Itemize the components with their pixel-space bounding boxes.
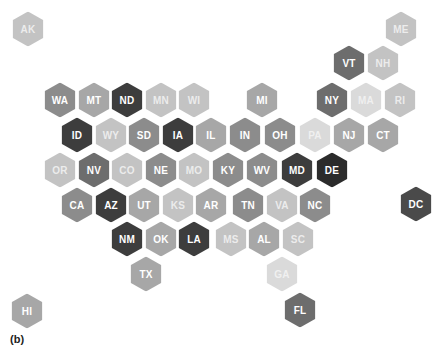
state-label: CA [70, 200, 85, 210]
state-hex-mo: MO [179, 153, 210, 188]
state-label: KY [221, 165, 235, 175]
us-hex-tile-map: AKMEVTNHWAMTNDMNWIMINYMARIIDWYSDIAILINOH… [0, 0, 442, 354]
state-label: NV [87, 165, 101, 175]
state-hex-la: LA [179, 222, 210, 257]
state-hex-in: IN [230, 118, 261, 153]
state-hex-vt: VT [334, 46, 365, 81]
state-label: TX [139, 269, 152, 279]
state-label: WV [254, 165, 271, 175]
state-hex-or: OR [45, 153, 76, 188]
state-hex-ks: KS [163, 188, 194, 223]
state-label: NE [154, 165, 168, 175]
state-label: ID [72, 130, 82, 140]
state-hex-nv: NV [79, 153, 110, 188]
state-label: AL [257, 234, 271, 244]
state-label: DE [325, 165, 339, 175]
state-hex-va: VA [267, 188, 298, 223]
state-hex-oh: OH [265, 118, 296, 153]
state-hex-il: IL [196, 118, 227, 153]
state-label: AR [204, 200, 219, 210]
state-label: AZ [104, 200, 118, 210]
state-label: NH [376, 58, 391, 68]
state-hex-hi: HI [12, 294, 43, 329]
state-label: RI [395, 95, 405, 105]
state-hex-mn: MN [146, 83, 177, 118]
state-label: WY [103, 130, 120, 140]
state-hex-nj: NJ [334, 118, 365, 153]
state-hex-wv: WV [247, 153, 278, 188]
state-hex-ga: GA [267, 257, 298, 292]
state-hex-ri: RI [385, 83, 416, 118]
state-label: LA [187, 234, 201, 244]
state-hex-ny: NY [317, 83, 348, 118]
state-hex-wy: WY [96, 118, 127, 153]
state-hex-sc: SC [283, 222, 314, 257]
state-label: CO [119, 165, 134, 175]
state-hex-ms: MS [216, 222, 247, 257]
state-hex-sd: SD [129, 118, 160, 153]
state-label: IL [206, 130, 215, 140]
state-label: SC [291, 234, 305, 244]
state-hex-nh: NH [368, 46, 399, 81]
state-label: CT [376, 130, 390, 140]
state-label: NJ [342, 130, 355, 140]
state-hex-ky: KY [213, 153, 244, 188]
state-label: SD [137, 130, 151, 140]
state-label: OK [153, 234, 168, 244]
state-label: OR [52, 165, 67, 175]
state-hex-id: ID [62, 118, 93, 153]
state-hex-md: MD [282, 153, 313, 188]
state-label: DC [409, 199, 424, 209]
state-hex-az: AZ [96, 188, 127, 223]
state-hex-ar: AR [196, 188, 227, 223]
state-label: FL [294, 305, 307, 315]
state-hex-nm: NM [112, 222, 143, 257]
state-label: MS [223, 234, 238, 244]
state-label: NM [119, 234, 135, 244]
state-label: MN [153, 95, 169, 105]
state-label: AK [21, 24, 36, 34]
state-label: VA [275, 200, 289, 210]
state-hex-ca: CA [62, 188, 93, 223]
state-label: MT [87, 95, 102, 105]
state-label: ME [393, 24, 408, 34]
state-hex-al: AL [249, 222, 280, 257]
state-label: PA [308, 130, 322, 140]
state-hex-tn: TN [233, 188, 264, 223]
panel-label: (b) [10, 333, 24, 345]
state-hex-nd: ND [112, 83, 143, 118]
state-label: MO [186, 165, 203, 175]
state-label: NY [325, 95, 339, 105]
state-label: WI [188, 95, 201, 105]
state-hex-tx: TX [131, 257, 162, 292]
state-hex-de: DE [317, 153, 348, 188]
state-hex-dc: DC [401, 187, 432, 222]
state-label: HI [22, 306, 32, 316]
state-hex-ak: AK [13, 12, 44, 47]
state-hex-mt: MT [79, 83, 110, 118]
state-label: OH [272, 130, 287, 140]
state-hex-fl: FL [285, 293, 316, 328]
state-label: NC [308, 200, 323, 210]
state-label: IA [173, 130, 183, 140]
state-label: KS [171, 200, 185, 210]
state-label: UT [137, 200, 151, 210]
state-hex-pa: PA [300, 118, 331, 153]
state-hex-wi: WI [179, 83, 210, 118]
state-hex-co: CO [112, 153, 143, 188]
state-hex-wa: WA [45, 83, 76, 118]
state-label: IN [240, 130, 250, 140]
state-hex-ma: MA [351, 83, 382, 118]
state-hex-ut: UT [129, 188, 160, 223]
state-hex-ct: CT [368, 118, 399, 153]
state-label: MI [256, 95, 268, 105]
state-hex-ok: OK [146, 222, 177, 257]
state-label: MA [358, 95, 374, 105]
state-hex-ia: IA [163, 118, 194, 153]
state-hex-nc: NC [300, 188, 331, 223]
state-hex-ne: NE [146, 153, 177, 188]
state-label: GA [274, 269, 289, 279]
state-label: WA [52, 95, 69, 105]
state-label: VT [342, 58, 355, 68]
state-label: TN [241, 200, 255, 210]
